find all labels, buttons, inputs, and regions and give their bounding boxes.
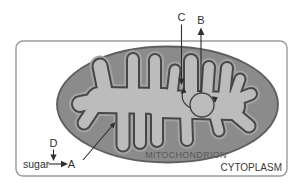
crista-segment [207,67,209,96]
mitochondrion-label: MITOCHONDRION [145,150,227,160]
label-c: C [178,11,186,23]
label-b: B [197,14,204,26]
diagram-canvas: MITOCHONDRION C B D sugar A CYTOPLASM [0,0,300,185]
sugar-label: sugar [23,158,50,170]
crista-segment [224,68,227,97]
label-a: A [68,158,76,170]
mitochondrion-diagram: MITOCHONDRION C B D sugar A CYTOPLASM [0,0,300,185]
cytoplasm-label: CYTOPLASM [221,162,283,173]
crista-segment [238,94,251,99]
crista-segment [186,112,187,140]
crista-segment [100,66,106,96]
reaction-cycle-circle [190,93,214,117]
label-b-arrow-icon [198,28,205,36]
crista-segment [214,112,219,131]
label-d: D [50,137,58,149]
crista-segment [172,70,175,94]
